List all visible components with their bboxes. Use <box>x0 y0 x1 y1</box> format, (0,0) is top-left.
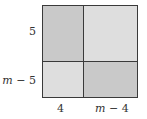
vertical-divider <box>83 6 84 97</box>
label-bottom-left: 4 <box>57 102 64 115</box>
label-left-top: 5 <box>29 25 36 38</box>
label-left-bottom: m − 5 <box>2 74 36 87</box>
label-bottom-right: m − 4 <box>95 102 129 115</box>
region-bottom-left <box>43 61 83 97</box>
region-bottom-right <box>83 61 137 97</box>
divided-square <box>42 5 138 98</box>
region-top-left <box>43 6 83 61</box>
region-top-right <box>83 6 137 61</box>
horizontal-divider <box>43 61 137 62</box>
